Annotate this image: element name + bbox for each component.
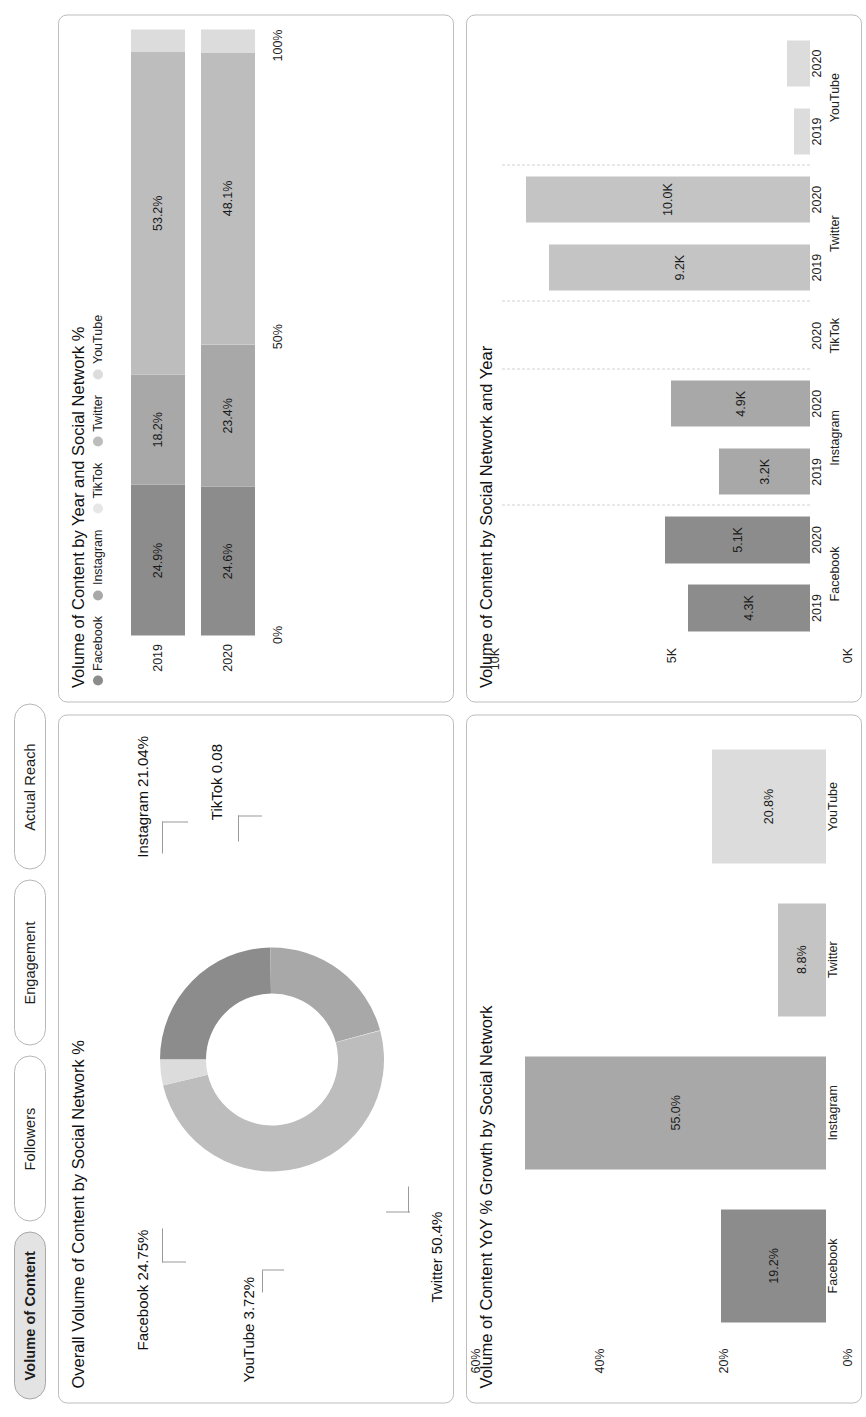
x-year-label: 2020 (810, 29, 828, 97)
donut-slice-facebook[interactable] (160, 947, 271, 1059)
x-group-label: Facebook (828, 505, 848, 641)
y-tick-label: 10K (488, 648, 502, 670)
x-axis: FacebookInstagramTwitterYouTube (826, 730, 848, 1343)
x-year-label: 2019 (810, 97, 828, 165)
x-axis: 0%50%100% (271, 29, 289, 644)
bar-youtube[interactable]: 20.8% (712, 749, 826, 862)
tab-label: Followers (22, 1107, 38, 1170)
leader-line (162, 1228, 163, 1262)
legend-item-tiktok[interactable]: TikTok (91, 462, 105, 513)
y-tick-label: 0% (841, 1348, 855, 1366)
grouped-bar-plot-area: 0K5K10K4.3K5.1K3.2K4.9K9.2K10.0K20192020… (498, 29, 848, 688)
y-axis: 0%20%40%60% (498, 1342, 848, 1388)
tab-actual-reach[interactable]: Actual Reach (14, 703, 46, 869)
stacked-segment-instagram[interactable]: 23.4% (201, 344, 255, 486)
leader-line (238, 816, 262, 817)
donut-slice-instagram[interactable] (270, 947, 380, 1042)
bar-slot: 20.8% (498, 730, 826, 883)
plot-area: 19.2%55.0%8.8%20.8%FacebookInstagramTwit… (498, 730, 848, 1343)
stacked-segment-twitter[interactable]: 53.2% (131, 51, 185, 374)
bar-twitter[interactable]: 8.8% (778, 903, 826, 1016)
donut-label: TikTok 0.08 (208, 744, 225, 820)
stacked-segment-facebook[interactable]: 24.9% (131, 484, 185, 635)
bar-youtube-2020[interactable] (787, 40, 810, 86)
stacked-segment-youtube[interactable] (131, 29, 185, 51)
legend-label: YouTube (91, 314, 105, 363)
category-label: 2020 (221, 636, 235, 688)
bar-slot (498, 97, 810, 165)
stacked-segment-instagram[interactable]: 18.2% (131, 374, 185, 484)
yoy-chart: 0%20%40%60%19.2%55.0%8.8%20.8%FacebookIn… (498, 730, 848, 1389)
bar-slot: 9.2K (498, 233, 810, 301)
x-group-label: TikTok (828, 301, 848, 369)
y-tick-label: 0K (841, 648, 855, 663)
category-label: 2019 (151, 636, 165, 688)
donut-chart: Facebook 24.75%YouTube 3.72%Twitter 50.4… (90, 730, 440, 1389)
panel-title: Volume of Content by Social Network and … (477, 29, 496, 688)
legend-label: Twitter (91, 395, 105, 432)
bar-slot: 4.9K (498, 369, 810, 437)
x-tick-label: Instagram (826, 1036, 848, 1189)
x-group-labels: FacebookInstagramTikTokTwitterYouTube (828, 29, 848, 642)
bar-slot: 8.8% (498, 883, 826, 1036)
x-year-label: 2020 (810, 301, 828, 369)
x-tick-label: Facebook (826, 1189, 848, 1342)
bar-twitter-2020[interactable]: 10.0K (526, 176, 810, 222)
tab-engagement[interactable]: Engagement (14, 879, 46, 1045)
donut-plot-area: Facebook 24.75%YouTube 3.72%Twitter 50.4… (90, 730, 440, 1389)
bar-slot: 5.1K (498, 505, 810, 573)
leader-line (162, 822, 163, 854)
bar-facebook[interactable]: 19.2% (721, 1209, 826, 1322)
bar-instagram-2020[interactable]: 4.9K (671, 380, 810, 426)
panel-title: Volume of Content by Year and Social Net… (69, 29, 88, 688)
stacked-bar-row: 201924.9%18.2%53.2% (131, 29, 185, 688)
legend-item-instagram[interactable]: Instagram (91, 529, 105, 600)
x-year-label: 2020 (810, 505, 828, 573)
bar-instagram-2019[interactable]: 3.2K (719, 448, 810, 494)
stacked-segment-twitter[interactable]: 48.1% (201, 52, 255, 344)
panel-volume-by-year-stacked: Volume of Content by Year and Social Net… (58, 14, 454, 703)
y-tick-label: 60% (469, 1348, 483, 1373)
stacked-segment-facebook[interactable]: 24.6% (201, 486, 255, 635)
legend-label: Instagram (91, 529, 105, 585)
chart-legend: FacebookInstagramTikTokTwitterYouTube (91, 29, 105, 686)
bar-instagram[interactable]: 55.0% (525, 1056, 826, 1169)
tab-volume-of-content[interactable]: Volume of Content (14, 1231, 46, 1399)
bar-youtube-2019[interactable] (794, 108, 810, 154)
bar-slot: 19.2% (498, 1189, 826, 1342)
grouped-chart: 0K5K10K4.3K5.1K3.2K4.9K9.2K10.0K20192020… (498, 29, 848, 688)
leader-line (408, 1186, 409, 1212)
leader-line (262, 1269, 284, 1270)
bar-slot: 55.0% (498, 1036, 826, 1189)
legend-item-twitter[interactable]: Twitter (91, 395, 105, 447)
legend-item-youtube[interactable]: YouTube (91, 314, 105, 378)
bar-facebook-2019[interactable]: 4.3K (688, 584, 810, 630)
x-group-label: Instagram (828, 369, 848, 505)
x-tick-label: 100% (271, 29, 285, 61)
bars: 4.3K5.1K3.2K4.9K9.2K10.0K (498, 29, 810, 642)
bar-slot: 4.3K (498, 573, 810, 641)
x-year-label: 2020 (810, 369, 828, 437)
legend-swatch-icon (93, 436, 103, 446)
donut-svg (122, 909, 422, 1209)
bar-slot (498, 301, 810, 369)
legend-swatch-icon (93, 369, 103, 379)
panel-yoy-growth: Volume of Content YoY % Growth by Social… (466, 715, 862, 1404)
x-tick-label: 0% (271, 625, 285, 643)
bar-facebook-2020[interactable]: 5.1K (665, 516, 810, 562)
x-group-label: Twitter (828, 165, 848, 301)
plot-area: 4.3K5.1K3.2K4.9K9.2K10.0K201920202019202… (498, 29, 848, 642)
x-year-label: 2020 (810, 165, 828, 233)
leader-line (162, 822, 188, 823)
stacked-segment-youtube[interactable] (201, 29, 255, 52)
tab-followers[interactable]: Followers (14, 1055, 46, 1221)
legend-swatch-icon (93, 590, 103, 600)
rotated-page-wrapper: Volume of Content Followers Engagement A… (0, 0, 866, 1417)
x-year-label: 2019 (810, 573, 828, 641)
y-tick-label: 20% (717, 1348, 731, 1373)
bar-twitter-2019[interactable]: 9.2K (549, 244, 810, 290)
legend-label: Facebook (91, 616, 105, 671)
stacked-bar-track: 24.9%18.2%53.2% (131, 29, 185, 636)
tab-bar: Volume of Content Followers Engagement A… (10, 14, 50, 1403)
legend-item-facebook[interactable]: Facebook (91, 616, 105, 686)
